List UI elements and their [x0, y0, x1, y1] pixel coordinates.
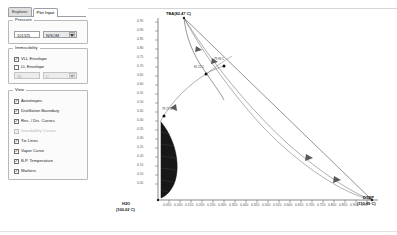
y-tick-label: 0.90 — [137, 29, 143, 32]
azeotrope-annotation: 81.22 C — [194, 66, 204, 69]
checkbox-ll-envelope[interactable]: LL Envelope — [14, 65, 44, 70]
vertex-marker-h2o — [157, 199, 159, 201]
vertex-label-dtbp: DTBP — [363, 196, 374, 201]
checkbox-label: Markers — [21, 169, 36, 173]
y-tick-label: 0.15 — [137, 164, 143, 167]
pressure-unit-select[interactable]: N/SQM — [43, 31, 77, 38]
x-tick-label: 0.200 — [196, 204, 204, 207]
tab-plot-input[interactable]: Plot Input — [33, 8, 59, 17]
checkbox-box-icon — [14, 169, 19, 174]
vertex-sublabel-h2o: (100.02 C) — [116, 208, 135, 213]
x-tick-label: 0.900 — [350, 204, 358, 207]
checkbox-label: Azeotropes — [21, 99, 42, 103]
checkbox-azeotropes[interactable]: Azeotropes — [14, 99, 42, 104]
x-tick-label: 0.400 — [240, 204, 248, 207]
checkbox-box-icon — [14, 149, 19, 154]
x-tick-label: 0.350 — [229, 204, 237, 207]
checkbox-box-icon — [14, 65, 19, 70]
vertex-label-tba: TBA(82.47 C) — [166, 12, 191, 17]
x-tick-label: 0.450 — [251, 204, 259, 207]
checkbox-isovolatility-curves[interactable]: Isovolatility Curves — [14, 129, 56, 134]
y-tick-label: 0.65 — [137, 74, 143, 77]
checkbox-markers[interactable]: Markers — [14, 169, 36, 174]
y-tick-label: 0.20 — [137, 155, 143, 158]
footer-divider — [0, 231, 397, 232]
checkbox-box-icon — [14, 139, 19, 144]
x-tick-label: 0.650 — [295, 204, 303, 207]
checkbox-label: B.P. Temperature — [21, 159, 53, 163]
x-tick-label: 0.800 — [328, 204, 336, 207]
hypotenuse-edge — [184, 18, 372, 200]
immiscibility-group-label: Immiscibility — [13, 46, 40, 50]
ternary-residue-curve-map[interactable]: TBA(82.47 C) H2O (100.02 C) DTBP (110.89… — [120, 4, 395, 230]
x-tick-label: 0.250 — [207, 204, 215, 207]
checkbox-label: VLL Envelope — [21, 57, 47, 61]
y-tick-label: 0.10 — [137, 173, 143, 176]
checkbox-label: Tie Lines — [21, 139, 38, 143]
pressure-input[interactable]: 101325 — [14, 31, 40, 38]
chevron-down-icon — [69, 73, 75, 79]
y-tick-marks — [155, 22, 158, 184]
vll-envelope-region — [161, 122, 177, 198]
x-tick-label: 0.600 — [284, 204, 292, 207]
view-group: View Azeotropes Distillation Boundary Re… — [8, 90, 88, 180]
view-group-label: View — [13, 88, 26, 92]
y-tick-label: 0.45 — [137, 110, 143, 113]
y-tick-label: 0.85 — [137, 38, 143, 41]
pressure-group: Pressure 101325 N/SQM — [8, 20, 88, 44]
x-tick-label: 0.850 — [339, 204, 347, 207]
azeotrope-annotation: 79.72 C — [162, 108, 172, 111]
chevron-down-icon — [69, 32, 75, 38]
x-tick-label: 0.700 — [306, 204, 314, 207]
y-tick-label: 0.05 — [137, 182, 143, 185]
immiscibility-temperature-input[interactable]: 30 — [14, 72, 40, 79]
checkbox-vll-envelope[interactable]: VLL Envelope — [14, 57, 47, 62]
y-tick-label: 0.40 — [137, 119, 143, 122]
vapor-curve — [160, 66, 224, 122]
azeotrope-marker — [163, 115, 166, 118]
checkbox-label: Res. / Dis. Curves — [21, 119, 55, 123]
x-tick-label: 0.100 — [174, 204, 182, 207]
y-tick-label: 0.60 — [137, 83, 143, 86]
checkbox-box-icon — [14, 99, 19, 104]
x-tick-label: 0.500 — [262, 204, 270, 207]
tab-strip: Explorer Plot Input — [8, 6, 86, 17]
immiscibility-temperature-unit-select[interactable]: C — [43, 72, 77, 79]
azeotrope-marker — [205, 73, 208, 76]
y-tick-label: 0.50 — [137, 101, 143, 104]
checkbox-tie-lines[interactable]: Tie Lines — [14, 139, 38, 144]
checkbox-label: LL Envelope — [21, 65, 44, 69]
checkbox-box-icon — [14, 159, 19, 164]
y-tick-label: 0.30 — [137, 137, 143, 140]
tab-explorer[interactable]: Explorer — [8, 7, 32, 16]
x-tick-label: 0.550 — [273, 204, 281, 207]
y-tick-label: 0.35 — [137, 128, 143, 131]
chart-canvas — [120, 4, 395, 230]
vertex-markers — [157, 17, 373, 201]
y-tick-label: 0.75 — [137, 56, 143, 59]
pressure-group-label: Pressure — [13, 18, 34, 22]
checkbox-label: Vapor Curve — [21, 149, 44, 153]
y-tick-label: 0.70 — [137, 65, 143, 68]
azeotrope-marker — [223, 65, 226, 68]
x-tick-label: 0.750 — [317, 204, 325, 207]
checkbox-bp-temperature[interactable]: B.P. Temperature — [14, 159, 53, 164]
immiscibility-temperature-unit-value: C — [46, 74, 49, 79]
x-tick-label: 0.95 — [361, 204, 367, 207]
checkbox-distillation-boundary[interactable]: Distillation Boundary — [14, 109, 59, 114]
x-tick-label: 0.150 — [185, 204, 193, 207]
x-tick-label: 0.300 — [218, 204, 226, 207]
azeotrope-annotation: 79.96 C — [214, 58, 224, 61]
y-tick-label: 0.25 — [137, 146, 143, 149]
checkbox-res-dis-curves[interactable]: Res. / Dis. Curves — [14, 119, 55, 124]
checkbox-vapor-curve[interactable]: Vapor Curve — [14, 149, 44, 154]
vertex-label-h2o: H2O — [122, 202, 130, 207]
x-tick-label: 0.050 — [163, 204, 171, 207]
y-tick-label: 0.55 — [137, 92, 143, 95]
checkbox-box-icon — [14, 109, 19, 114]
immiscibility-group: Immiscibility VLL Envelope LL Envelope 3… — [8, 48, 88, 84]
y-tick-label: 0.80 — [137, 47, 143, 50]
checkbox-box-icon — [14, 129, 19, 134]
checkbox-box-icon — [14, 119, 19, 124]
y-tick-label: 0.95 — [137, 20, 143, 23]
